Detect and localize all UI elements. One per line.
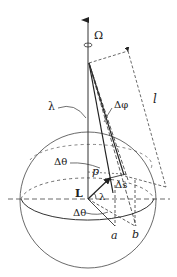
point-a-label: a [111, 230, 118, 241]
rect-top [89, 51, 128, 63]
lambda-top-leader [58, 106, 86, 118]
foucault-pendulum-diagram: Ω λ Δφ l Δθ p Δs L λ Δθ a b [0, 0, 177, 277]
delta-s-label: Δs [115, 180, 127, 190]
point-p-label: p [92, 166, 99, 177]
pendulum-line-b [89, 63, 128, 180]
lambda-top-label: λ [48, 101, 55, 112]
p-to-s [110, 174, 126, 178]
delta-theta-lower-leader [86, 212, 108, 214]
point-b-label: b [132, 229, 139, 240]
latitude-circle [30, 144, 152, 170]
diagram-svg [0, 0, 177, 277]
lambda-bottom-arc [94, 193, 96, 199]
equator-front [21, 199, 154, 220]
length-label: l [153, 93, 157, 105]
omega-label: Ω [94, 30, 103, 41]
delta-theta-lower-label: Δθ [73, 208, 86, 218]
delta-theta-upper-label: Δθ [54, 157, 67, 167]
L-label: L [75, 188, 83, 199]
pendulum-line-b2 [89, 63, 136, 226]
delta-phi-label: Δφ [114, 100, 128, 110]
rect-bottom [125, 176, 166, 187]
lambda-bottom-label: λ [99, 192, 105, 202]
